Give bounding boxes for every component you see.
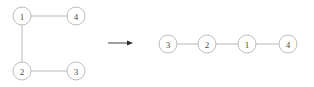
left-graph-nodes: 1 4 2 3: [13, 7, 85, 80]
path-node-1-label: 1: [245, 40, 250, 50]
arrow-head: [127, 40, 133, 45]
path-node-3[interactable]: 3: [159, 35, 177, 53]
path-node-2-label: 2: [205, 40, 210, 50]
arrow-icon: [108, 40, 133, 45]
node-4[interactable]: 4: [67, 7, 85, 25]
graph-figure: 1 4 2 3: [0, 0, 314, 87]
path-node-4-label: 4: [286, 40, 291, 50]
path-node-2[interactable]: 2: [198, 35, 216, 53]
path-node-4[interactable]: 4: [279, 35, 297, 53]
node-3[interactable]: 3: [67, 62, 85, 80]
node-1-label: 1: [20, 12, 25, 22]
node-2-label: 2: [20, 67, 25, 77]
node-1[interactable]: 1: [13, 7, 31, 25]
path-node-3-label: 3: [166, 40, 171, 50]
node-3-label: 3: [74, 67, 79, 77]
node-2[interactable]: 2: [13, 62, 31, 80]
figure-canvas: 1 4 2 3: [0, 0, 314, 87]
node-4-label: 4: [74, 12, 79, 22]
path-node-1[interactable]: 1: [238, 35, 256, 53]
left-graph-edges: [22, 16, 67, 71]
